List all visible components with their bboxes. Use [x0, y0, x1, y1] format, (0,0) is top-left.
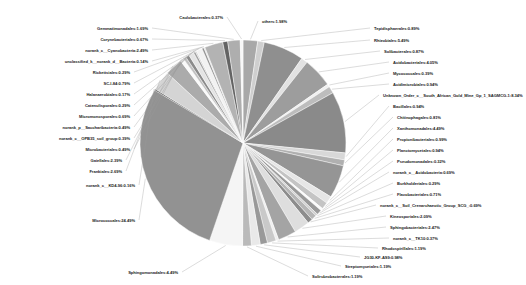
slice-label: Chitinophagales:0.81%: [397, 115, 441, 120]
slice-label: norank_c__TK10:0.37%: [393, 236, 438, 241]
slice-label: Tepidisphaerales:0.89%: [374, 26, 420, 31]
leader-line: [152, 39, 225, 41]
slice-label: Xanthomonadales:4.49%: [397, 126, 445, 131]
slice-label: SC-I-84:0.79%: [103, 81, 130, 86]
slice-label: Solibacterales:0.87%: [384, 49, 424, 54]
slice-label: Frankiales:2.69%: [89, 169, 122, 174]
leader-line: [278, 238, 389, 241]
slice-label: Streptomycetales:1.19%: [345, 264, 392, 269]
slice-label: others:1.98%: [262, 19, 287, 24]
slice-label: Mycococcales:0.39%: [393, 71, 433, 76]
slice-label: Corynebacteriales:0.67%: [100, 37, 148, 42]
leader-line: [264, 245, 360, 257]
slice-label: Microbacteriales:0.49%: [86, 147, 131, 152]
leader-line: [272, 243, 378, 248]
leader-line: [284, 40, 370, 48]
slice-label: Halanaerobiales:0.17%: [86, 92, 130, 97]
slice-label: Bacillales:0.94%: [393, 104, 425, 109]
slice-label: unclassified_k__norank_d__Bacteria:0.14%: [65, 59, 149, 64]
slice-label: Caulobacterales:0.37%: [179, 15, 223, 20]
slice-label: Acidobacteriales:4.05%: [393, 60, 438, 65]
slice-label: Rickettsiales:0.29%: [93, 70, 131, 75]
slice-label: norank_c__Acidobacteria:0.69%: [393, 170, 455, 175]
slice-label: Gemmatimonadales:1.69%: [97, 26, 148, 31]
slice-label: norank_c__Soil_Crenarchaeotic_Group_SCG_…: [380, 203, 482, 208]
slice-label: Sphingomonadales:4.49%: [128, 270, 178, 275]
slice-label: Unknown_Order_c__South_African_Gold_Mine…: [383, 93, 523, 98]
slice-label: norank_p__Saccharibacteria:0.49%: [63, 125, 131, 130]
slice-label: Rhizobiales:5.49%: [374, 38, 409, 43]
slice-label: Gaiellales:2.39%: [91, 158, 123, 163]
pie-chart: others:1.98%Tepidisphaerales:0.89%Rhizob…: [0, 0, 526, 285]
slice-label: Catenulisporales:0.29%: [85, 103, 130, 108]
leader-line: [227, 17, 242, 39]
leader-line: [332, 84, 389, 89]
slice-label: Sphingobacteriales:2.47%: [390, 225, 440, 230]
leader-line: [152, 28, 234, 39]
leader-line: [305, 51, 380, 60]
leader-line: [251, 21, 259, 39]
pie-slices-group: [140, 40, 346, 246]
slice-label: Micromonosporales:0.69%: [79, 114, 130, 119]
pie-chart-canvas: others:1.98%Tepidisphaerales:0.89%Rhizob…: [0, 0, 526, 285]
slice-label: Micrococcales:24.49%: [92, 218, 135, 223]
slice-label: Rhodospirillales:1.19%: [382, 246, 426, 251]
slice-label: norank_c__Cyanobacteria:2.49%: [85, 48, 148, 53]
leader-line: [302, 216, 386, 228]
slice-label: Pseudomonadales:0.32%: [397, 159, 446, 164]
leader-line: [139, 179, 145, 220]
slice-label: Propionibacteriales:0.99%: [397, 137, 447, 142]
leader-line: [329, 73, 389, 85]
slice-label: Burkholderiales:0.29%: [397, 181, 440, 186]
leader-line: [288, 227, 386, 237]
slice-label: JG30-KF-AS9:0.98%: [364, 255, 403, 260]
leader-line: [345, 95, 379, 122]
slice-label: norank_c__OPB35_soil_group:0.39%: [59, 136, 130, 141]
slice-label: Solirubrobacterales:1.19%: [312, 274, 363, 279]
leader-line: [261, 28, 370, 41]
slice-label: Planctomycetales:0.94%: [397, 148, 444, 153]
leader-line: [182, 246, 226, 273]
slice-label: Kineosporiales:2.09%: [390, 214, 432, 219]
slice-label: norank_c__KD4-96:0.16%: [86, 183, 135, 188]
slice-label: Acidimicrobiales:0.94%: [393, 82, 438, 87]
slice-label: Flavobacteriales:0.71%: [397, 192, 442, 197]
leader-line: [319, 62, 389, 72]
